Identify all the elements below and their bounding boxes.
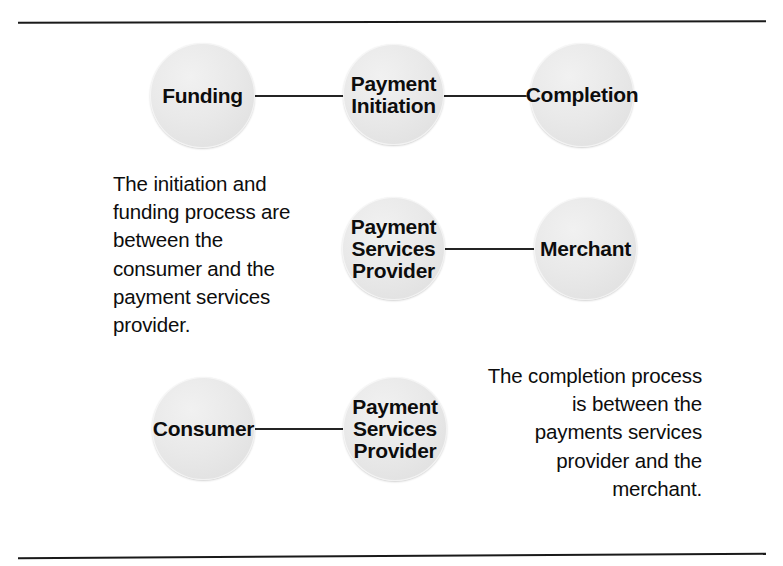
node-psp-bottom-line-3: Provider: [352, 440, 437, 462]
node-consumer-label: Consumer: [153, 418, 254, 440]
annotation-right-line-1: The completion process: [488, 362, 702, 390]
node-funding-line-1: Funding: [162, 85, 243, 107]
figure-canvas: Funding Payment Initiation Completion Pa…: [0, 0, 783, 566]
node-funding-label: Funding: [162, 85, 243, 107]
node-psp-bottom-line-1: Payment: [352, 396, 437, 418]
annotation-left-line-3: between the: [113, 226, 290, 254]
node-payment-services-provider-bottom[interactable]: Payment Services Provider: [343, 377, 447, 481]
connector-consumer-to-psp: [252, 428, 345, 430]
annotation-completion: The completion process is between the pa…: [488, 362, 702, 503]
node-completion-label: Completion: [526, 84, 639, 106]
node-psp-middle-line-2: Services: [351, 238, 436, 260]
connector-psp-to-merchant: [442, 248, 536, 250]
node-payment-services-provider-middle[interactable]: Payment Services Provider: [342, 197, 445, 300]
node-funding[interactable]: Funding: [150, 43, 255, 148]
node-payment-initiation-line-1: Payment: [351, 73, 436, 95]
annotation-left-line-6: provider.: [113, 311, 290, 339]
annotation-right-line-4: provider and the: [488, 447, 702, 475]
node-psp-middle-label: Payment Services Provider: [351, 216, 436, 282]
node-psp-bottom-line-2: Services: [352, 418, 437, 440]
node-payment-initiation[interactable]: Payment Initiation: [343, 44, 444, 145]
node-psp-middle-line-1: Payment: [351, 216, 436, 238]
top-divider-rule: [18, 20, 766, 24]
node-psp-middle-line-3: Provider: [351, 260, 436, 282]
annotation-left-line-4: consumer and the: [113, 255, 290, 283]
annotation-initiation-funding: The initiation and funding process are b…: [113, 170, 290, 339]
bottom-divider-rule: [18, 553, 766, 560]
annotation-right-line-3: payments services: [488, 418, 702, 446]
node-merchant-label: Merchant: [540, 238, 631, 260]
node-merchant[interactable]: Merchant: [534, 197, 637, 300]
node-payment-initiation-label: Payment Initiation: [351, 73, 436, 117]
annotation-left-line-1: The initiation and: [113, 170, 290, 198]
annotation-left-line-5: payment services: [113, 283, 290, 311]
node-consumer-line-1: Consumer: [153, 418, 254, 440]
connector-payment-initiation-to-completion: [441, 95, 533, 97]
connector-funding-to-payment-initiation: [252, 95, 346, 97]
annotation-right-line-2: is between the: [488, 390, 702, 418]
node-consumer[interactable]: Consumer: [152, 377, 255, 480]
node-psp-bottom-label: Payment Services Provider: [352, 396, 437, 462]
node-payment-initiation-line-2: Initiation: [351, 95, 436, 117]
node-merchant-line-1: Merchant: [540, 238, 631, 260]
node-completion[interactable]: Completion: [530, 43, 634, 147]
node-completion-line-1: Completion: [526, 84, 639, 106]
annotation-left-line-2: funding process are: [113, 198, 290, 226]
annotation-right-line-5: merchant.: [488, 475, 702, 503]
